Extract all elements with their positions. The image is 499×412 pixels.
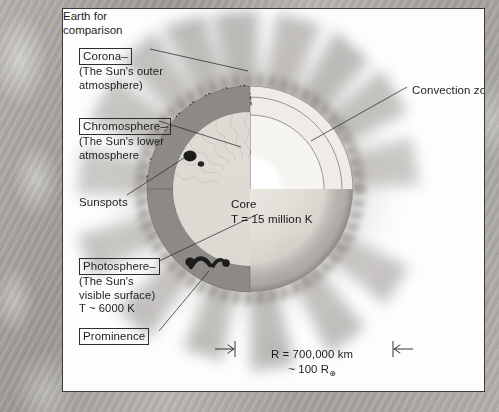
- label-corona: Corona– (The Sun's outer atmosphere): [79, 45, 163, 92]
- label-chromosphere-title: Chromosphere–: [79, 118, 171, 135]
- label-corona-line1: (The Sun's outer: [79, 65, 163, 79]
- label-prominence-title: Prominence: [79, 328, 149, 345]
- figure-panel: Corona– (The Sun's outer atmosphere) Chr…: [62, 8, 485, 392]
- figure-canvas: Corona– (The Sun's outer atmosphere) Chr…: [63, 9, 484, 391]
- label-core-title: Core: [231, 196, 313, 211]
- label-photosphere-title: Photosphere–: [79, 258, 160, 275]
- label-prominence: Prominence: [79, 325, 149, 345]
- label-photosphere-line1: (The Sun's: [79, 275, 160, 289]
- label-corona-line2: atmosphere): [79, 79, 163, 93]
- label-chromosphere: Chromosphere– (The Sun's lower atmospher…: [79, 115, 171, 162]
- label-photosphere-line2: visible surface): [79, 289, 160, 303]
- label-photosphere: Photosphere– (The Sun's visible surface)…: [79, 255, 160, 316]
- scale-radius-value: R = 700,000 km: [271, 348, 353, 360]
- label-core-temperature: T = 15 million K: [231, 211, 313, 226]
- label-convection-zone-title: Convection zone: [412, 84, 485, 96]
- label-photosphere-temperature: T ~ 6000 K: [79, 302, 160, 316]
- label-core: Core T = 15 million K: [231, 196, 313, 227]
- label-sunspots: Sunspots: [79, 191, 128, 211]
- label-chromosphere-line2: atmosphere: [79, 149, 171, 163]
- earth-symbol: ⊕: [329, 369, 336, 378]
- scale-bar-caption: R = 700,000 km ~ 100 R⊕: [271, 347, 353, 380]
- label-chromosphere-line1: (The Sun's lower: [79, 135, 171, 149]
- label-sunspots-title: Sunspots: [79, 196, 128, 208]
- scale-earth-radii: ~ 100 R⊕: [271, 362, 353, 380]
- label-convection-zone: Convection zone: [412, 79, 485, 99]
- label-corona-title: Corona–: [79, 48, 132, 65]
